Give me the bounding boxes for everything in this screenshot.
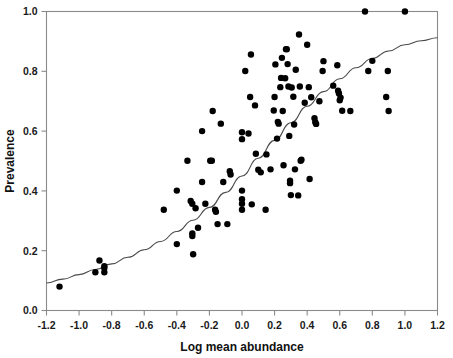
data-point bbox=[239, 129, 245, 135]
data-point bbox=[347, 108, 353, 114]
y-tick-label: 0.2 bbox=[23, 245, 38, 257]
data-point bbox=[242, 68, 248, 74]
data-point bbox=[247, 94, 253, 100]
y-tick-label: 0.8 bbox=[23, 65, 38, 77]
x-axis-title: Log mean abundance bbox=[180, 340, 304, 354]
x-axis-tick-labels: -1.2-1.0-0.8-0.6-0.4-0.20.00.20.40.60.81… bbox=[37, 319, 444, 331]
data-point bbox=[220, 179, 226, 185]
data-point bbox=[362, 8, 368, 14]
data-point bbox=[199, 179, 205, 185]
y-tick-label: 0.6 bbox=[23, 125, 38, 137]
data-point bbox=[287, 180, 293, 186]
x-tick-label: -1.2 bbox=[37, 319, 55, 331]
data-point bbox=[284, 61, 290, 67]
data-point bbox=[369, 58, 375, 64]
data-point bbox=[319, 68, 325, 74]
y-axis-title: Prevalence bbox=[3, 129, 17, 193]
data-point bbox=[279, 55, 285, 61]
data-point bbox=[248, 51, 254, 57]
data-point bbox=[365, 68, 371, 74]
data-point bbox=[271, 107, 277, 113]
y-tick-label: 1.0 bbox=[23, 5, 38, 17]
data-point bbox=[96, 257, 102, 263]
data-point bbox=[296, 31, 302, 37]
data-point bbox=[286, 133, 292, 139]
x-tick-label: -0.2 bbox=[200, 319, 218, 331]
plot-canvas: -1.2-1.0-0.8-0.6-0.4-0.20.00.20.40.60.81… bbox=[0, 0, 453, 358]
data-point bbox=[209, 108, 215, 114]
data-point bbox=[291, 121, 297, 127]
data-point bbox=[263, 151, 269, 157]
y-tick-label: 0.0 bbox=[23, 304, 38, 316]
data-point bbox=[383, 94, 389, 100]
data-point bbox=[209, 158, 215, 164]
fitted-logistic-curve bbox=[47, 38, 438, 283]
data-point bbox=[239, 187, 245, 193]
data-point bbox=[195, 224, 201, 230]
data-point bbox=[189, 233, 195, 239]
data-point bbox=[282, 75, 288, 81]
data-point bbox=[320, 58, 326, 64]
data-point bbox=[290, 94, 296, 100]
data-point bbox=[249, 201, 255, 207]
data-point bbox=[239, 207, 245, 213]
data-point bbox=[280, 108, 286, 114]
data-points-layer bbox=[56, 8, 408, 289]
x-tick-label: -0.4 bbox=[168, 319, 186, 331]
x-tick-label: 0.6 bbox=[332, 319, 347, 331]
data-point bbox=[202, 201, 208, 207]
data-point bbox=[295, 192, 301, 198]
data-point bbox=[258, 169, 264, 175]
y-axis-tick-labels: 0.00.20.40.60.81.0 bbox=[23, 5, 38, 316]
x-tick-label: 1.2 bbox=[430, 319, 445, 331]
data-point bbox=[214, 221, 220, 227]
data-point bbox=[252, 102, 258, 108]
data-point bbox=[313, 121, 319, 127]
x-tick-label: 0.0 bbox=[235, 319, 250, 331]
data-point bbox=[213, 209, 219, 215]
data-point bbox=[385, 68, 391, 74]
data-point bbox=[224, 221, 230, 227]
data-point bbox=[190, 251, 196, 257]
data-point bbox=[284, 46, 290, 52]
data-point bbox=[174, 241, 180, 247]
data-point bbox=[274, 135, 280, 141]
data-point bbox=[316, 98, 322, 104]
data-point bbox=[184, 158, 190, 164]
data-point bbox=[271, 94, 277, 100]
data-point bbox=[56, 283, 62, 289]
data-point bbox=[306, 84, 312, 90]
data-point bbox=[297, 83, 303, 89]
x-tick-label: 0.8 bbox=[365, 319, 380, 331]
data-point bbox=[92, 269, 98, 275]
data-point bbox=[288, 192, 294, 198]
data-point bbox=[339, 108, 345, 114]
data-point bbox=[280, 162, 286, 168]
data-point bbox=[239, 201, 245, 207]
data-point bbox=[218, 120, 224, 126]
data-point bbox=[293, 67, 299, 73]
data-point bbox=[245, 130, 251, 136]
data-point bbox=[101, 269, 107, 275]
x-tick-label: 0.4 bbox=[300, 319, 315, 331]
data-point bbox=[302, 100, 308, 106]
data-point bbox=[192, 205, 198, 211]
data-point bbox=[277, 84, 283, 90]
data-point bbox=[262, 207, 268, 213]
scatter-plot-figure: -1.2-1.0-0.8-0.6-0.4-0.20.00.20.40.60.81… bbox=[0, 0, 453, 358]
data-point bbox=[385, 108, 391, 114]
data-point bbox=[161, 207, 167, 213]
x-tick-label: 1.0 bbox=[398, 319, 413, 331]
y-tick-label: 0.4 bbox=[23, 185, 38, 197]
data-point bbox=[267, 166, 273, 172]
x-tick-label: -1.0 bbox=[70, 319, 88, 331]
data-point bbox=[402, 8, 408, 14]
data-point bbox=[275, 120, 281, 126]
data-point bbox=[298, 157, 304, 163]
data-point bbox=[239, 136, 245, 142]
data-point bbox=[306, 176, 312, 182]
data-point bbox=[292, 166, 298, 172]
data-point bbox=[330, 82, 336, 88]
x-tick-label: -0.8 bbox=[103, 319, 121, 331]
x-tick-label: 0.2 bbox=[267, 319, 282, 331]
